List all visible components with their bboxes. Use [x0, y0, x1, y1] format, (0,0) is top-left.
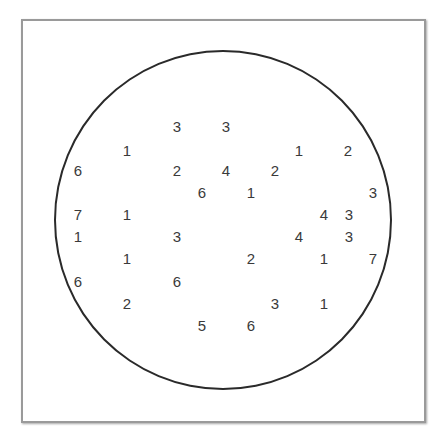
number-label: 1	[123, 143, 131, 158]
boundary-circle	[54, 50, 392, 390]
number-label: 2	[173, 163, 181, 178]
number-label: 1	[74, 229, 82, 244]
number-label: 2	[247, 251, 255, 266]
number-label: 7	[369, 251, 377, 266]
number-label: 4	[295, 229, 303, 244]
number-label: 1	[247, 185, 255, 200]
number-label: 1	[320, 251, 328, 266]
number-label: 2	[271, 163, 279, 178]
number-label: 1	[295, 143, 303, 158]
number-label: 4	[222, 163, 230, 178]
number-label: 3	[173, 229, 181, 244]
number-label: 3	[345, 229, 353, 244]
number-label: 5	[198, 318, 206, 333]
number-label: 3	[369, 185, 377, 200]
number-label: 2	[123, 296, 131, 311]
number-label: 6	[74, 163, 82, 178]
number-label: 2	[344, 143, 352, 158]
number-label: 3	[271, 296, 279, 311]
number-label: 6	[247, 318, 255, 333]
number-label: 4	[320, 207, 328, 222]
number-label: 7	[74, 207, 82, 222]
number-label: 6	[198, 185, 206, 200]
number-label: 6	[173, 274, 181, 289]
number-label: 1	[123, 207, 131, 222]
number-label: 1	[123, 251, 131, 266]
number-label: 6	[74, 274, 82, 289]
number-label: 3	[222, 119, 230, 134]
number-label: 3	[345, 207, 353, 222]
number-label: 3	[173, 119, 181, 134]
number-label: 1	[320, 296, 328, 311]
